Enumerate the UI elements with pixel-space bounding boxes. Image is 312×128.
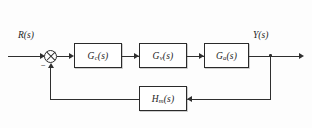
controller-input-arrowhead-icon — [69, 53, 74, 59]
input-line — [8, 56, 44, 57]
block-process-label: Ga(s) — [216, 51, 237, 61]
negative-sign-label: − — [41, 62, 46, 70]
output-arrowhead-icon — [299, 53, 304, 59]
block-diagram-canvas: R(s) − Gc(s) Gv(s) Ga(s) Y(s) Hm(s) — [0, 0, 312, 128]
block-controller-label: Gc(s) — [88, 51, 109, 61]
block-sensor[interactable]: Hm(s) — [139, 86, 187, 111]
output-line — [249, 56, 301, 57]
feedback-down-line — [270, 56, 271, 100]
block-controller[interactable]: Gc(s) — [74, 43, 122, 68]
input-signal-label: R(s) — [18, 30, 34, 40]
feedback-left-line — [50, 99, 139, 100]
block-process[interactable]: Ga(s) — [204, 43, 249, 68]
feedback-up-line — [50, 68, 51, 99]
block-sensor-label: Hm(s) — [152, 94, 175, 104]
block-actuator-label: Gv(s) — [153, 51, 174, 61]
block-actuator[interactable]: Gv(s) — [139, 43, 187, 68]
summing-junction-feedback-arrowhead-icon — [48, 63, 54, 68]
sensor-input-arrowhead-icon — [187, 96, 192, 102]
output-signal-label: Y(s) — [253, 30, 268, 40]
feedback-right-line — [187, 99, 271, 100]
